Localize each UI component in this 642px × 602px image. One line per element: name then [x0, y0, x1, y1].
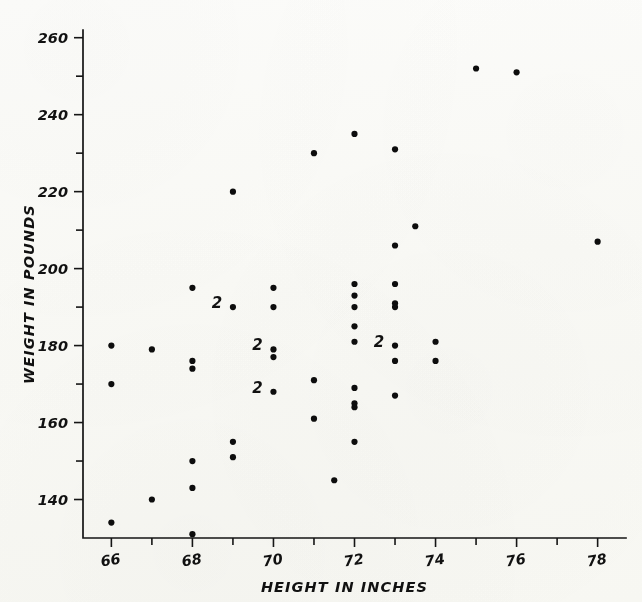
data-point	[230, 189, 236, 195]
data-point	[230, 304, 236, 310]
data-point	[189, 458, 195, 464]
data-point	[513, 69, 519, 75]
x-tick-label: 68	[180, 551, 202, 570]
data-point	[230, 439, 236, 445]
data-point	[270, 354, 276, 360]
x-tick-label: 66	[99, 551, 121, 570]
data-point	[311, 150, 317, 156]
data-point	[270, 304, 276, 310]
data-point	[331, 477, 337, 483]
x-axis-title: HEIGHT IN INCHES	[261, 579, 428, 595]
y-tick-label: 160	[38, 415, 68, 431]
overlap-count-label: 2	[252, 336, 262, 354]
data-point	[311, 416, 317, 422]
data-point	[392, 146, 398, 152]
x-tick-label: 78	[586, 551, 608, 570]
x-tick-label: 76	[505, 551, 527, 570]
y-tick-label: 200	[38, 261, 68, 277]
plot-canvas: 14016018020022024026066687072747678HEIGH…	[0, 0, 642, 602]
x-tick-label: 74	[424, 551, 446, 570]
data-point	[351, 404, 357, 410]
data-point	[230, 454, 236, 460]
data-point	[270, 389, 276, 395]
y-tick-label: 140	[38, 492, 68, 508]
y-axis-title: WEIGHT IN POUNDS	[21, 204, 37, 384]
data-point	[351, 385, 357, 391]
data-point	[311, 377, 317, 383]
data-point	[392, 358, 398, 364]
data-point	[149, 346, 155, 352]
overlap-count-label: 2	[252, 379, 262, 397]
data-point	[189, 358, 195, 364]
data-point	[189, 485, 195, 491]
data-point	[351, 439, 357, 445]
data-point	[432, 339, 438, 345]
y-tick-label: 220	[38, 184, 68, 200]
data-point	[392, 242, 398, 248]
data-point	[412, 223, 418, 229]
data-point	[189, 366, 195, 372]
scatter-plot-figure: 14016018020022024026066687072747678HEIGH…	[0, 0, 642, 602]
x-tick-label: 70	[261, 551, 283, 570]
data-point	[149, 496, 155, 502]
data-point	[108, 520, 114, 526]
data-point	[432, 358, 438, 364]
data-point	[351, 304, 357, 310]
data-point	[473, 65, 479, 71]
data-point	[270, 346, 276, 352]
data-point	[351, 339, 357, 345]
data-point	[392, 342, 398, 348]
data-point	[392, 281, 398, 287]
y-tick-label: 260	[38, 30, 68, 46]
y-tick-label: 180	[38, 338, 68, 354]
data-point	[108, 381, 114, 387]
data-point	[392, 304, 398, 310]
data-point	[595, 239, 601, 245]
data-point	[392, 393, 398, 399]
y-tick-label: 240	[38, 107, 68, 123]
x-tick-label: 72	[342, 551, 364, 570]
overlap-count-label: 2	[212, 294, 222, 312]
overlap-count-label: 2	[374, 333, 384, 351]
data-point	[189, 531, 195, 537]
data-point	[351, 281, 357, 287]
data-point	[351, 323, 357, 329]
data-point	[351, 131, 357, 137]
data-point	[270, 285, 276, 291]
data-point	[108, 342, 114, 348]
data-point	[189, 285, 195, 291]
data-point	[351, 292, 357, 298]
